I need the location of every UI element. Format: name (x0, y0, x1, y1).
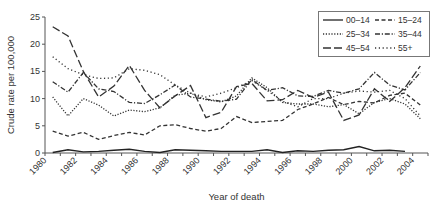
legend-swatch-icon (323, 30, 343, 38)
legend-label: 15–24 (398, 15, 422, 25)
y-tick-label: 15 (30, 66, 40, 76)
x-tick-label: 1980 (27, 155, 48, 176)
legend-item: 25–34 (323, 29, 370, 39)
legend-swatch-icon (323, 16, 343, 24)
series-line-00-14 (53, 147, 405, 153)
x-tick-label: 1996 (272, 155, 293, 176)
x-axis-title: Year of death (208, 191, 264, 202)
x-tick-label: 1998 (303, 155, 324, 176)
legend-item: 15–24 (375, 15, 422, 25)
y-tick-label: 10 (30, 94, 40, 104)
legend-item: 55+ (375, 43, 412, 53)
x-tick-label: 2000 (334, 155, 355, 176)
x-tick-label: 1994 (242, 155, 263, 176)
series-line-35-44 (53, 73, 421, 104)
y-tick-label: 25 (30, 12, 40, 22)
legend: 00–1415–2425–3435–4445–5455+ (318, 11, 430, 57)
y-tick-label: 5 (35, 121, 40, 131)
legend-label: 35–44 (398, 29, 422, 39)
series-line-15-24 (53, 93, 421, 139)
legend-swatch-icon (375, 16, 395, 24)
legend-label: 45–54 (346, 43, 370, 53)
legend-swatch-icon (323, 44, 343, 52)
legend-swatch-icon (375, 30, 395, 38)
x-tick-label: 2004 (395, 155, 416, 176)
x-tick-label: 1986 (119, 155, 140, 176)
x-tick-label: 1988 (150, 155, 171, 176)
legend-item: 35–44 (375, 29, 422, 39)
x-tick-label: 2002 (364, 155, 385, 176)
y-axis-title: Crude rate per 100,000 (5, 36, 16, 134)
x-tick-label: 1984 (88, 155, 109, 176)
x-tick-label: 1990 (180, 155, 201, 176)
x-tick-label: 1982 (58, 155, 79, 176)
y-tick-label: 20 (30, 39, 40, 49)
legend-item: 45–54 (323, 43, 370, 53)
legend-item: 00–14 (323, 15, 370, 25)
legend-label: 55+ (398, 43, 412, 53)
legend-label: 25–34 (346, 29, 370, 39)
legend-label: 00–14 (346, 15, 370, 25)
line-chart: 0510152025198019821984198619881990199219… (0, 0, 445, 206)
x-tick-label: 1992 (211, 155, 232, 176)
legend-swatch-icon (375, 44, 395, 52)
